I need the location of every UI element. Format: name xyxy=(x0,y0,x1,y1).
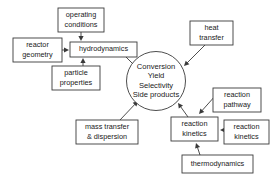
node-performance-hub[interactable]: ConversionYieldSelectivitySide products xyxy=(127,52,186,111)
node-label-line: transfer xyxy=(199,33,224,42)
node-label-line: reaction xyxy=(182,119,208,128)
edge-line xyxy=(197,147,200,155)
arrow-head-icon xyxy=(78,36,83,41)
diagram-svg: operatingconditionsreactorgeometryhydrod… xyxy=(0,0,277,182)
arrow-head-icon xyxy=(64,47,69,52)
hub-label-line: Conversion xyxy=(137,62,175,71)
node-label-line: thermodynamics xyxy=(191,159,245,168)
hub-label-line: Yield xyxy=(148,71,165,80)
node-particle-properties[interactable]: particleproperties xyxy=(52,66,100,90)
node-heat-transfer[interactable]: heattransfer xyxy=(190,21,233,45)
node-label-line: conditions xyxy=(65,20,98,29)
node-mass-transfer-dispersion[interactable]: mass transfer& dispersion xyxy=(76,120,138,144)
node-label-line: kinetics xyxy=(234,132,259,141)
edge-geometry-to-hydrodynamics xyxy=(62,47,69,52)
edge-kinetics-to-hub xyxy=(178,103,188,117)
node-label-line: geometry xyxy=(22,50,53,59)
edge-heat-to-hub xyxy=(184,45,205,66)
node-reaction-pathway[interactable]: reactionpathway xyxy=(213,88,261,112)
node-reaction-kinetics-main[interactable]: reactionkinetics xyxy=(171,117,218,141)
node-label-line: mass transfer xyxy=(85,122,130,131)
edge-line xyxy=(187,45,205,63)
node-reactor-geometry[interactable]: reactorgeometry xyxy=(13,38,62,62)
node-label-line: operating xyxy=(66,10,96,19)
hub-label-line: Side products xyxy=(133,90,180,99)
hub-layer: ConversionYieldSelectivitySide products xyxy=(127,52,186,111)
node-label-line: reaction xyxy=(224,90,250,99)
node-thermodynamics[interactable]: thermodynamics xyxy=(182,155,253,173)
node-label-line: & dispersion xyxy=(87,132,127,141)
edge-mass-to-hub xyxy=(120,101,138,120)
node-label-line: reaction xyxy=(234,122,260,131)
node-label-line: pathway xyxy=(223,100,251,109)
hub-label-line: Selectivity xyxy=(139,81,173,90)
edge-line xyxy=(181,107,188,117)
edge-particle-to-hydrodynamics xyxy=(80,58,85,66)
edge-operating-to-hydrodynamics xyxy=(78,32,83,41)
node-hydrodynamics[interactable]: hydrodynamics xyxy=(70,42,137,57)
node-label-line: particle xyxy=(64,68,88,77)
arrow-head-icon xyxy=(80,58,85,63)
node-reaction-kinetics-right[interactable]: reactionkinetics xyxy=(224,120,269,144)
edge-thermodynamics-to-kinetics xyxy=(195,143,200,155)
node-label-line: kinetics xyxy=(182,129,207,138)
influence-diagram-canvas: operatingconditionsreactorgeometryhydrod… xyxy=(0,0,277,182)
node-label-line: reactor xyxy=(26,40,49,49)
node-operating-conditions[interactable]: operatingconditions xyxy=(58,8,104,32)
edge-line xyxy=(120,104,135,120)
arrow-head-icon xyxy=(195,143,200,149)
arrow-head-icon xyxy=(178,103,183,109)
node-label-line: hydrodynamics xyxy=(79,44,128,53)
node-label-line: heat xyxy=(204,23,218,32)
node-label-line: properties xyxy=(60,78,93,87)
